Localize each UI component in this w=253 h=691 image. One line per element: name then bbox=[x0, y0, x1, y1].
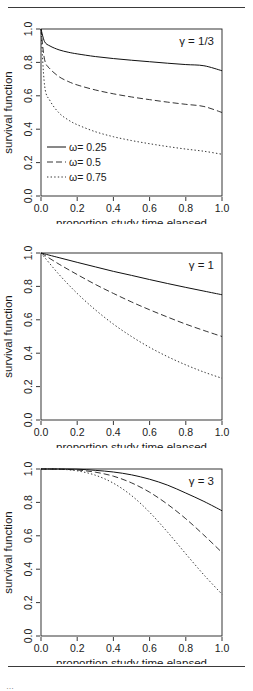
legend-label: ω= 0.25 bbox=[69, 141, 107, 153]
legend-label: ω= 0.75 bbox=[69, 171, 107, 183]
x-tick-label: 0.6 bbox=[142, 642, 157, 654]
y-tick-label: 0.2 bbox=[22, 155, 34, 170]
x-tick-label: 1.0 bbox=[215, 202, 230, 214]
y-tick-label: 0.4 bbox=[22, 346, 34, 361]
y-tick-label: 0.6 bbox=[22, 528, 34, 543]
x-tick-label: 0.4 bbox=[106, 202, 121, 214]
plot-panel-gamma-1: 0.00.20.40.60.81.00.00.20.40.60.81.0prop… bbox=[0, 242, 253, 448]
x-tick-label: 0.0 bbox=[34, 426, 49, 438]
chart-panel-gamma-3: 0.00.20.40.60.81.00.00.20.40.60.81.0prop… bbox=[0, 458, 253, 664]
x-tick-label: 1.0 bbox=[215, 426, 230, 438]
y-tick-label: 0.4 bbox=[22, 562, 34, 577]
bottom-rule bbox=[8, 666, 245, 667]
x-tick-label: 0.2 bbox=[70, 426, 85, 438]
y-tick-label: 0.2 bbox=[22, 595, 34, 610]
y-tick-label: 0.8 bbox=[22, 55, 34, 70]
series-line bbox=[41, 469, 222, 594]
legend-label: ω= 0.5 bbox=[69, 156, 101, 168]
chart-panel-gamma-1: 0.00.20.40.60.81.00.00.20.40.60.81.0prop… bbox=[0, 242, 253, 448]
y-tick-label: 1.0 bbox=[22, 246, 34, 261]
plot-frame bbox=[41, 469, 222, 636]
y-tick-label: 1.0 bbox=[22, 462, 34, 477]
x-tick-label: 0.0 bbox=[34, 642, 49, 654]
plot-panel-gamma-3: 0.00.20.40.60.81.00.00.20.40.60.81.0prop… bbox=[0, 458, 253, 664]
x-tick-label: 0.2 bbox=[70, 642, 85, 654]
y-axis-title: survival function bbox=[2, 295, 14, 377]
y-tick-label: 0.6 bbox=[22, 88, 34, 103]
x-axis-title: proportion study time elapsed bbox=[56, 657, 207, 664]
gamma-annotation: γ = 1 bbox=[189, 259, 214, 271]
x-tick-label: 0.8 bbox=[178, 426, 193, 438]
x-tick-label: 0.4 bbox=[106, 642, 121, 654]
x-tick-label: 0.0 bbox=[34, 202, 49, 214]
x-tick-label: 1.0 bbox=[215, 642, 230, 654]
x-tick-label: 0.6 bbox=[142, 202, 157, 214]
gamma-annotation: γ = 1/3 bbox=[179, 35, 214, 47]
plot-panel-gamma-one-third: 0.00.20.40.60.81.00.00.20.40.60.81.0prop… bbox=[0, 18, 253, 224]
y-tick-label: 0.8 bbox=[22, 279, 34, 294]
series-line bbox=[41, 29, 222, 154]
x-tick-label: 0.6 bbox=[142, 426, 157, 438]
y-tick-label: 1.0 bbox=[22, 22, 34, 37]
y-tick-label: 0.0 bbox=[22, 413, 34, 428]
y-tick-label: 0.4 bbox=[22, 122, 34, 137]
x-tick-label: 0.4 bbox=[106, 426, 121, 438]
chart-panel-gamma-one-third: 0.00.20.40.60.81.00.00.20.40.60.81.0prop… bbox=[0, 18, 253, 224]
caption-fragment: … bbox=[6, 682, 247, 691]
y-axis-title: survival function bbox=[2, 71, 14, 153]
series-line bbox=[41, 253, 222, 378]
gamma-annotation: γ = 3 bbox=[189, 475, 214, 487]
y-tick-label: 0.6 bbox=[22, 312, 34, 327]
x-tick-label: 0.8 bbox=[178, 642, 193, 654]
figure-page: 0.00.20.40.60.81.00.00.20.40.60.81.0prop… bbox=[0, 0, 253, 691]
x-axis-title: proportion study time elapsed bbox=[56, 217, 207, 224]
y-tick-label: 0.0 bbox=[22, 629, 34, 644]
x-tick-label: 0.8 bbox=[178, 202, 193, 214]
y-tick-label: 0.8 bbox=[22, 495, 34, 510]
x-tick-label: 0.2 bbox=[70, 202, 85, 214]
top-rule bbox=[8, 7, 245, 8]
y-tick-label: 0.0 bbox=[22, 189, 34, 204]
y-tick-label: 0.2 bbox=[22, 379, 34, 394]
y-axis-title: survival function bbox=[2, 511, 14, 593]
x-axis-title: proportion study time elapsed bbox=[56, 441, 207, 448]
